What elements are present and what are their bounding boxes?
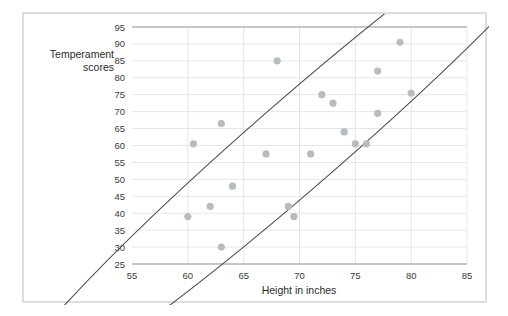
y-tick-label: 65 (114, 123, 125, 134)
y-tick-label: 90 (114, 38, 125, 49)
data-point (408, 89, 415, 96)
x-tick-label: 80 (406, 270, 417, 281)
y-tick-label: 95 (114, 22, 125, 33)
data-point (229, 183, 236, 190)
x-axis-title: Height in inches (262, 284, 337, 296)
data-point (374, 110, 381, 117)
data-point (290, 213, 297, 220)
x-tick-label: 65 (238, 270, 249, 281)
x-tick-label: 55 (127, 270, 138, 281)
y-tick-label: 75 (114, 89, 125, 100)
data-point (318, 91, 325, 98)
x-tick-label: 70 (294, 270, 305, 281)
y-tick-label: 25 (114, 259, 125, 270)
y-axis-tick-labels: 253035404550556065707580859095 (114, 22, 125, 270)
x-tick-label: 60 (183, 270, 194, 281)
y-tick-label: 50 (114, 174, 125, 185)
data-point (285, 203, 292, 210)
y-tick-label: 60 (114, 140, 125, 151)
y-tick-label: 45 (114, 191, 125, 202)
x-tick-label: 75 (350, 270, 361, 281)
data-point (274, 57, 281, 64)
y-tick-label: 85 (114, 55, 125, 66)
y-tick-label: 80 (114, 72, 125, 83)
chart-canvas: 253035404550556065707580859095 556065707… (24, 14, 489, 305)
scatter-chart: 253035404550556065707580859095 556065707… (24, 14, 489, 305)
y-tick-label: 35 (114, 225, 125, 236)
data-point (307, 150, 314, 157)
data-point (329, 100, 336, 107)
y-tick-label: 70 (114, 106, 125, 117)
data-point (184, 213, 191, 220)
data-point (218, 243, 225, 250)
y-tick-label: 30 (114, 242, 125, 253)
data-point (190, 140, 197, 147)
y-axis-title-line1: Temperament (50, 48, 114, 60)
data-point (396, 39, 403, 46)
data-point (352, 140, 359, 147)
data-point (341, 128, 348, 135)
data-point (262, 150, 269, 157)
data-point (374, 67, 381, 74)
x-axis-tick-labels: 55606570758085 (127, 270, 473, 281)
y-tick-label: 40 (114, 208, 125, 219)
figure-frame: 253035404550556065707580859095 556065707… (22, 12, 487, 303)
x-tick-label: 85 (462, 270, 473, 281)
y-axis-title-line2: scores (83, 61, 114, 73)
data-point (363, 140, 370, 147)
y-tick-label: 55 (114, 157, 125, 168)
data-point (207, 203, 214, 210)
data-point (218, 120, 225, 127)
